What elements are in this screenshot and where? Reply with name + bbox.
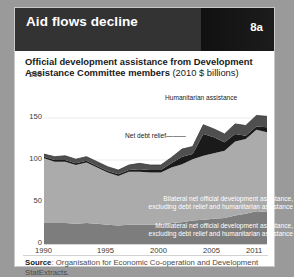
- footer-divider: [23, 255, 268, 256]
- source-text: : Organisation for Economic Co-operation…: [25, 258, 258, 277]
- figure-header: Aid flows decline 8a: [15, 8, 274, 51]
- chart-subtitle: Official development assistance from Dev…: [25, 56, 268, 79]
- annotation-humanitarian-assistance: Humanitarian assistance: [165, 94, 237, 102]
- annotation-multilateral-oda: Multilateral net official development as…: [137, 222, 293, 238]
- source-note: Source: Organisation for Economic Co-ope…: [25, 258, 268, 277]
- leader-line-icon: ———: [166, 132, 186, 139]
- x-tick-1990: 1990: [35, 246, 52, 255]
- annotation-bilateral-oda: Bilateral net official development assis…: [148, 195, 293, 211]
- x-tick-2011: 2011: [246, 246, 262, 255]
- plot-right-mask: [267, 80, 274, 245]
- figure-number-badge: 8a: [250, 21, 263, 33]
- y-tick-150: 150: [20, 112, 42, 121]
- annotation-bilateral-oda-line1: Bilateral net official development assis…: [148, 195, 293, 203]
- y-tick-100: 100: [20, 154, 42, 163]
- chart-plot-area: [15, 80, 274, 240]
- y-tick-200: 200: [20, 70, 42, 79]
- figure-card: Aid flows decline 8a Official developmen…: [14, 7, 275, 267]
- annotation-net-debt-relief-label: Net debt relief: [125, 132, 166, 139]
- y-tick-50: 50: [20, 196, 42, 205]
- source-label: Source: [25, 258, 51, 267]
- annotation-net-debt-relief: Net debt relief———: [125, 132, 186, 140]
- x-tick-2005: 2005: [203, 246, 220, 255]
- annotation-multilateral-oda-line1: Multilateral net official development as…: [137, 222, 293, 230]
- annotation-multilateral-oda-line2: excluding debt relief and humanitarian a…: [137, 230, 293, 238]
- annotation-bilateral-oda-line2: excluding debt relief and humanitarian a…: [148, 203, 293, 211]
- x-tick-1995: 1995: [97, 246, 114, 255]
- chart-subtitle-unit: (2010 $ billions): [170, 67, 239, 78]
- x-tick-2000: 2000: [150, 246, 167, 255]
- stacked-area-chart: [15, 80, 274, 245]
- page-title: Aid flows decline: [26, 13, 206, 30]
